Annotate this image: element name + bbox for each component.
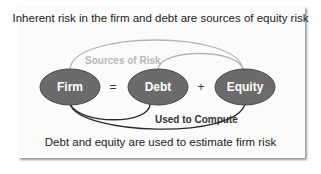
node-equity-label: Equity [227, 80, 264, 94]
arc-debt-to-firm [70, 104, 150, 120]
plus-sign: + [197, 80, 204, 94]
node-equity: Equity [215, 69, 275, 105]
arc-debt-to-equity [158, 54, 243, 71]
node-debt-label: Debt [145, 80, 172, 94]
diagram-footer: Debt and equity are used to estimate fir… [0, 136, 321, 148]
node-firm: Firm [40, 69, 100, 105]
sources-of-risk-label: Sources of Risk [85, 55, 161, 66]
used-to-compute-label: Used to Compute [155, 114, 238, 125]
equals-sign: = [109, 80, 116, 94]
node-debt: Debt [128, 69, 188, 105]
node-firm-label: Firm [57, 80, 83, 94]
